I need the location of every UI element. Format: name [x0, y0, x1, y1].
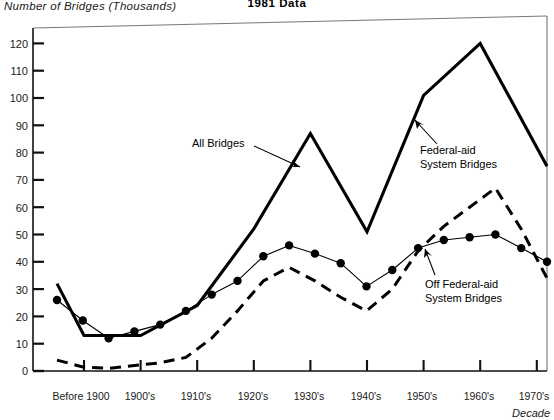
- data-point-marker: [79, 316, 87, 324]
- x-tick-marks: [84, 360, 537, 371]
- data-point-marker: [53, 296, 61, 304]
- data-point-marker: [130, 327, 138, 335]
- data-point-marker: [465, 233, 473, 241]
- data-point-marker: [285, 241, 293, 249]
- chart-figure: 1981 Data Number of Bridges (Thousands) …: [0, 0, 554, 420]
- data-point-marker: [337, 259, 345, 267]
- data-point-marker: [233, 277, 241, 285]
- y-tick-marks: [33, 43, 44, 371]
- data-point-marker: [156, 320, 164, 328]
- data-point-marker: [311, 249, 319, 257]
- series-federal-aid: [57, 188, 547, 368]
- series-off-federal-aid-markers: [53, 230, 551, 342]
- data-point-marker: [517, 244, 525, 252]
- data-point-marker: [491, 230, 499, 238]
- data-point-marker: [208, 290, 216, 298]
- data-point-marker: [362, 282, 370, 290]
- chart-plot-svg: [0, 0, 554, 420]
- data-point-marker: [440, 236, 448, 244]
- series-all-bridges: [57, 43, 547, 335]
- series-off-federal-aid: [57, 235, 547, 339]
- data-point-marker: [104, 334, 112, 342]
- data-point-marker: [388, 266, 396, 274]
- leader-all-bridges: [254, 146, 300, 167]
- data-point-marker: [259, 252, 267, 260]
- data-point-marker: [182, 307, 190, 315]
- axis-spines: [33, 16, 547, 371]
- data-point-marker: [543, 258, 551, 266]
